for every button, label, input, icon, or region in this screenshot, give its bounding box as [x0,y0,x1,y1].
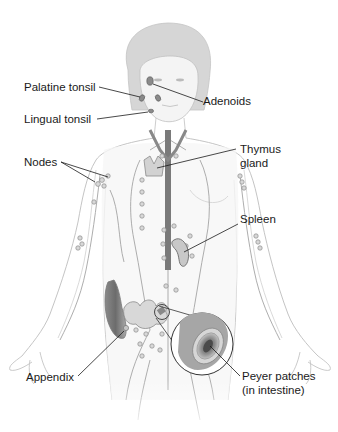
leader-lingual [97,112,148,119]
label-peyer-line2: (in intestine) [242,383,316,397]
label-appendix: Appendix [26,370,74,384]
leader-nodes-1 [61,162,108,177]
label-thymus-gland: Thymus gland [240,142,281,170]
label-thymus-line1: Thymus [240,142,281,156]
label-palatine-tonsil: Palatine tonsil [24,80,96,94]
lymphatic-system-diagram [0,0,338,432]
lingual-tonsil-shape [148,109,153,113]
label-lingual-tonsil: Lingual tonsil [24,112,91,126]
label-adenoids: Adenoids [203,94,251,108]
label-peyer-line1: Peyer patches [242,369,316,383]
label-nodes: Nodes [24,155,57,169]
thoracic-duct [165,130,171,270]
adenoids-shape [147,77,153,85]
label-thymus-line2: gland [240,156,281,170]
label-spleen: Spleen [240,212,276,226]
label-peyer-patches: Peyer patches (in intestine) [242,369,316,397]
appendix-shape [123,325,128,330]
